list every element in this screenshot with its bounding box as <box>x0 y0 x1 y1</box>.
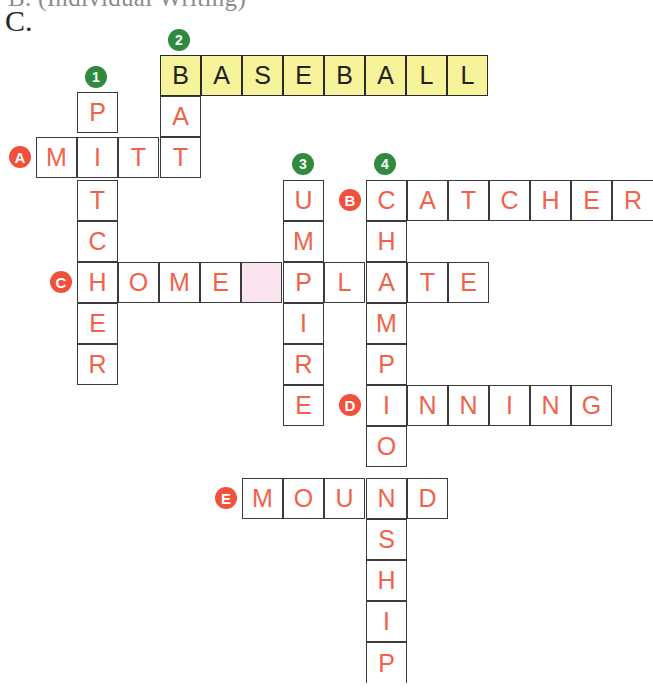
cell-inning-g[interactable]: G <box>571 385 612 426</box>
cell-baseball-a1[interactable]: A <box>201 55 242 96</box>
cell-pitcher-p[interactable]: P <box>77 92 118 133</box>
cell-baseball-b2[interactable]: B <box>324 55 365 96</box>
cell-plate-p[interactable]: P <box>283 262 324 303</box>
cell-umpire-i[interactable]: I <box>283 303 324 344</box>
cell-mound-m[interactable]: M <box>242 478 283 519</box>
cell-plate-e[interactable]: E <box>448 262 489 303</box>
cell-umpire-u[interactable]: U <box>283 180 324 221</box>
cell-home-o[interactable]: O <box>118 262 159 303</box>
cell-championship-h[interactable]: H <box>366 221 407 262</box>
cell-plate-a[interactable]: A <box>366 262 407 303</box>
cell-umpire-m[interactable]: M <box>283 221 324 262</box>
cell-pitcher-t[interactable]: T <box>77 180 118 221</box>
cell-championship-p2[interactable]: P <box>366 642 407 683</box>
cell-championship-s[interactable]: S <box>366 519 407 560</box>
clue-marker-a: A <box>9 146 31 168</box>
cell-pitcher-c[interactable]: C <box>77 221 118 262</box>
cell-championship-m[interactable]: M <box>366 303 407 344</box>
cell-catcher-r[interactable]: R <box>612 180 653 221</box>
cell-home-h[interactable]: H <box>77 262 118 303</box>
cell-bat-a[interactable]: A <box>160 96 201 137</box>
cell-umpire-r[interactable]: R <box>283 344 324 385</box>
cell-catcher-c[interactable]: C <box>366 180 407 221</box>
cell-catcher-c2[interactable]: C <box>489 180 530 221</box>
cell-mitt-m[interactable]: M <box>36 137 77 178</box>
cell-catcher-h[interactable]: H <box>530 180 571 221</box>
cell-pitcher-i[interactable]: I <box>77 137 118 178</box>
cell-mound-o[interactable]: O <box>283 478 324 519</box>
cell-inning-i2[interactable]: I <box>489 385 530 426</box>
cell-plate-t[interactable]: T <box>407 262 448 303</box>
cell-inning-n1[interactable]: N <box>407 385 448 426</box>
cell-championship-i[interactable]: I <box>366 601 407 642</box>
cell-championship-p[interactable]: P <box>366 344 407 385</box>
cell-baseball-a2[interactable]: A <box>365 55 406 96</box>
cell-bat-t[interactable]: T <box>160 137 201 178</box>
cell-baseball-s[interactable]: S <box>242 55 283 96</box>
clue-marker-2: 2 <box>168 29 190 51</box>
clue-marker-c: C <box>50 271 72 293</box>
cell-mound-d[interactable]: D <box>407 478 448 519</box>
cell-mound-u[interactable]: U <box>324 478 365 519</box>
clue-marker-1: 1 <box>85 66 107 88</box>
cell-umpire-e[interactable]: E <box>283 385 324 426</box>
cell-baseball-l1[interactable]: L <box>406 55 447 96</box>
cell-catcher-a[interactable]: A <box>407 180 448 221</box>
cell-mitt-t1[interactable]: T <box>118 137 159 178</box>
cell-mound-n[interactable]: N <box>366 478 407 519</box>
clue-marker-3: 3 <box>292 153 314 175</box>
cell-inning-n3[interactable]: N <box>530 385 571 426</box>
cell-baseball-e[interactable]: E <box>283 55 324 96</box>
cell-inning-i[interactable]: I <box>366 385 407 426</box>
cell-catcher-t[interactable]: T <box>448 180 489 221</box>
cell-championship-o[interactable]: O <box>366 426 407 467</box>
cell-baseball-b[interactable]: B <box>160 55 201 96</box>
cell-home-m[interactable]: M <box>159 262 200 303</box>
cell-baseball-l2[interactable]: L <box>447 55 488 96</box>
clue-marker-d: D <box>339 394 361 416</box>
cell-pitcher-r[interactable]: R <box>77 344 118 385</box>
cell-championship-h2[interactable]: H <box>366 560 407 601</box>
crossword-grid: BASEBALLPAMITTTUCATCHERCMHHOMEPLATEEIMRR… <box>0 0 653 699</box>
cell-plate-l[interactable]: L <box>324 262 365 303</box>
clue-marker-b: B <box>339 189 361 211</box>
cell-catcher-e[interactable]: E <box>571 180 612 221</box>
cell-home-space[interactable] <box>241 262 282 303</box>
clue-marker-e: E <box>215 487 237 509</box>
cell-pitcher-h[interactable]: E <box>77 303 118 344</box>
cell-home-e[interactable]: E <box>200 262 241 303</box>
cell-inning-n2[interactable]: N <box>448 385 489 426</box>
clue-marker-4: 4 <box>374 153 396 175</box>
